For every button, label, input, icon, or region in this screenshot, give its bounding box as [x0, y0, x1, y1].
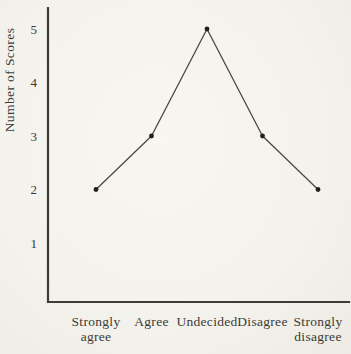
x-category-label: Disagree [237, 314, 287, 329]
y-tick-label: 3 [31, 129, 38, 144]
y-tick-label: 4 [31, 75, 38, 90]
y-axis-title: Number of Scores [2, 0, 18, 160]
line-chart-plot: 12345StronglyagreeAgreeUndecidedDisagree… [0, 0, 351, 354]
data-point [205, 27, 210, 32]
x-category-label: Agree [134, 314, 168, 329]
data-point [94, 187, 99, 192]
data-point [260, 134, 265, 139]
x-category-label: Stronglyagree [72, 314, 121, 344]
data-point [316, 187, 321, 192]
y-tick-label: 1 [31, 236, 38, 251]
series-line [96, 29, 318, 190]
x-category-label: Undecided [176, 314, 237, 329]
x-category-label: Stronglydisagree [294, 314, 343, 344]
chart-figure: Number of Scores 12345StronglyagreeAgree… [0, 0, 351, 354]
axes [48, 8, 349, 302]
y-tick-label: 5 [31, 22, 38, 37]
y-tick-label: 2 [31, 182, 38, 197]
data-point [149, 134, 154, 139]
